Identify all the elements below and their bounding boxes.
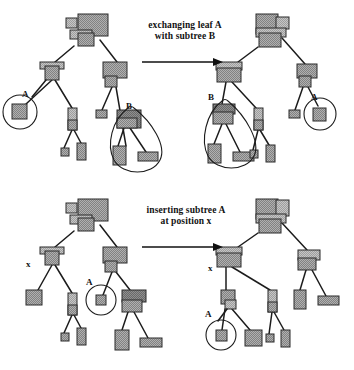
tree-edge [295,87,303,110]
tree-edge [134,312,148,338]
tree-node [208,144,221,163]
tree-edge [103,272,112,295]
tree-edge [116,272,130,290]
tree-node [140,338,162,347]
tree-edge [122,312,128,330]
tree-node [298,258,316,270]
tree-node [245,330,262,346]
tree-edge [55,265,72,293]
tree-node [294,290,306,309]
arrow-insert [142,243,223,251]
tree-node [105,76,117,87]
tree-edge [232,309,250,330]
tree-node [281,330,290,347]
tree-node [61,148,69,156]
tree-edge [55,80,72,108]
edges-after-insert [222,223,326,334]
tree-node [289,110,300,118]
edges-before-exchange [26,40,146,152]
tree-edge [274,312,284,330]
tree-edge [74,130,81,143]
tree-edge [226,124,240,152]
tree-edge [55,46,74,62]
tree-node [313,108,326,121]
tree-node [217,68,241,82]
tree-node [66,203,77,213]
nodes-after-insert [216,199,339,347]
tree-edge [232,82,256,108]
tree-edge [74,315,81,328]
tree-node [268,302,277,312]
tree-node [12,104,27,119]
tree-edge [26,80,52,104]
tree-node [78,33,94,46]
tree-node [216,330,227,341]
edges-before-insert [38,225,148,338]
edge-to-leaf-a-right-bottom [218,309,227,321]
tree-node [77,328,86,345]
edges-after-exchange [214,38,318,152]
tree-edge [130,128,146,152]
tree-node [96,110,107,118]
tree-node [68,305,77,315]
tree-node [117,118,137,128]
tree-node [225,300,236,309]
tree-node [122,300,142,312]
tree-edge [64,130,72,148]
tree-node [299,76,311,87]
tree-node [266,334,274,342]
figure-canvas: exchanging leaf A with subtree B A B B A [0,0,354,370]
tree-edge [214,124,222,144]
tree-edge [100,40,117,62]
tree-node [259,219,281,233]
tree-edge [55,231,74,247]
tree-edge [64,315,72,333]
tree-node [276,17,289,29]
tree-edge [282,38,305,64]
tree-node [213,112,233,124]
tree-node [105,261,117,272]
tree-node [26,290,42,305]
tree-edge [308,87,318,106]
tree-edge [232,267,270,290]
tree-node [77,143,86,160]
tree-node [259,33,281,47]
panel-insert: inserting subtree A at position x x A x … [0,185,354,370]
tree-node [115,330,129,350]
tree-node [78,218,94,231]
tree-edge [312,270,326,296]
tree-node [266,145,275,162]
arrow-exchange [142,58,223,66]
insert-diagram-graphics [0,185,354,370]
tree-edge [118,128,124,146]
tree-edge [238,47,258,62]
tree-node [318,296,339,305]
tree-edge [260,130,269,145]
tree-edge [282,223,307,250]
tree-node [61,333,69,341]
tree-edge [300,270,306,290]
tree-node [254,120,263,130]
tree-node [45,66,59,80]
panel-exchange: exchanging leaf A with subtree B A B B A [0,0,354,185]
edge-to-leaf-a-left-top [32,80,46,97]
tree-node [138,152,158,161]
tree-edge [238,233,258,247]
tree-node [68,120,77,130]
tree-edge [100,225,117,247]
tree-edge [269,312,272,334]
tree-node [217,253,241,267]
tree-node [96,295,106,305]
tree-node [45,251,59,265]
tree-edge [102,87,112,110]
tree-node [66,18,77,28]
tree-edge [38,265,52,290]
nodes-before-exchange [12,14,158,165]
exchange-diagram-graphics [0,0,354,185]
